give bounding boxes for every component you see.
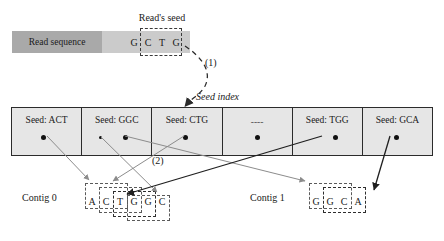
contig-0-label: Contig 0 (22, 192, 57, 203)
seed-pointer-dot (394, 135, 399, 140)
contig-0-base: G (142, 196, 154, 207)
seed-index-cell-act[interactable]: Seed: ACT (12, 108, 82, 155)
seed-index-cell-label: Seed: GCA (363, 115, 432, 125)
contig-1-base: G (310, 196, 322, 207)
reads-seed-highlight-box (140, 28, 182, 56)
seed-index-cell-tgg[interactable]: Seed: TGG (293, 108, 363, 155)
seed-index-cell-gca[interactable]: Seed: GCA (363, 108, 432, 155)
seed-index-cell-ellipsis[interactable]: ---- (223, 108, 293, 155)
seed-index-cell-label: ---- (223, 117, 292, 127)
seed-index-cell-label: Seed: GGC (82, 115, 151, 125)
step-2-label: (2) (152, 155, 164, 166)
seed-pointer-dot (99, 136, 102, 139)
contig-1-base: C (338, 196, 350, 207)
contig-1-base: A (352, 196, 364, 207)
contig-0-base: C (156, 196, 168, 207)
seed-index-table: Seed: ACT Seed: GGC Seed: CTG ---- Seed:… (11, 107, 433, 156)
contig-0-base: C (100, 196, 112, 207)
contig-0-base: T (114, 196, 126, 207)
seed-index-cell-ctg[interactable]: Seed: CTG (152, 108, 222, 155)
contig-0-base: A (86, 196, 98, 207)
read-sequence-label: Read sequence (12, 31, 102, 53)
contig-0-base: G (128, 196, 140, 207)
seed-index-cell-label: Seed: TGG (293, 115, 362, 125)
seed-pointer-dot (255, 135, 260, 140)
step-1-label: (1) (205, 57, 217, 68)
seed-pointer-dot (183, 135, 188, 140)
seed-pointer-dot (333, 135, 338, 140)
seed-index-cell-label: Seed: ACT (12, 115, 81, 125)
read-base: G (127, 37, 141, 48)
contig-1-base: G (324, 196, 336, 207)
seed-pointer-dot (123, 135, 128, 140)
contig-1-label: Contig 1 (250, 192, 285, 203)
seed-index-cell-ggc[interactable]: Seed: GGC (82, 108, 152, 155)
seed-pointer-dot (41, 135, 46, 140)
seed-index-title: Seed index (196, 91, 239, 102)
seed-index-diagram: Read's seed Read sequence G C T G (1) (2… (0, 0, 444, 241)
reads-seed-label: Read's seed (131, 12, 193, 23)
seed-index-cell-label: Seed: CTG (152, 115, 221, 125)
